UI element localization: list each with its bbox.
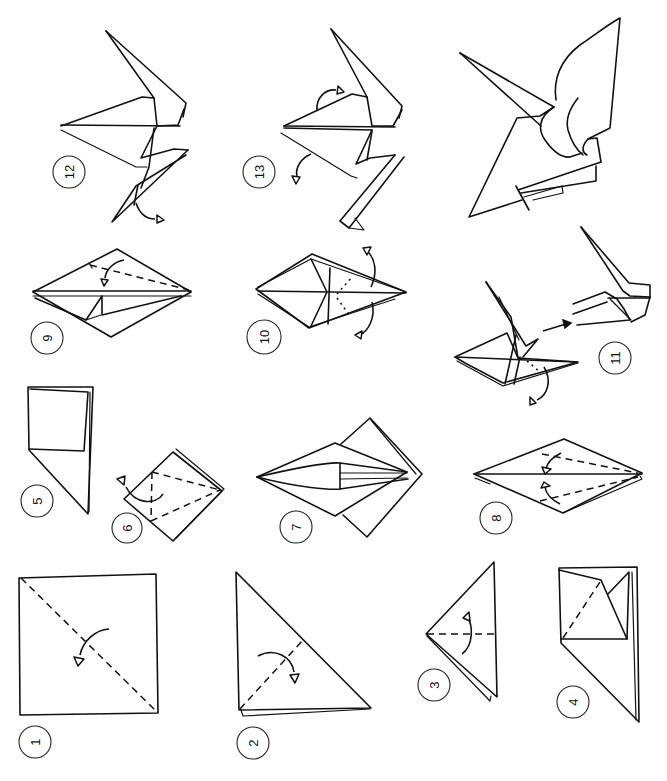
- arrow-head-icon: [290, 674, 299, 683]
- step-3-number-badge: 3: [418, 669, 450, 701]
- head-detail: [573, 227, 650, 325]
- step-12: 12: [53, 31, 188, 223]
- step-9-number: 9: [40, 334, 55, 341]
- wing-inner: [541, 107, 582, 157]
- step-13-number: 13: [252, 165, 267, 179]
- wing: [555, 18, 620, 155]
- arrow-head-icon: [355, 331, 362, 339]
- step-1-number-badge: 1: [19, 726, 51, 758]
- step-2-number: 2: [246, 739, 261, 746]
- diamond-body: [257, 443, 407, 516]
- fold-line: [563, 582, 600, 638]
- fold-arrow-up: [367, 251, 375, 287]
- step-8: 8: [474, 439, 642, 534]
- neck: [331, 29, 402, 118]
- step-11-number: 11: [608, 351, 623, 365]
- step-3-number: 3: [427, 681, 442, 688]
- arrow-head-icon: [117, 476, 125, 485]
- step-5: 5: [21, 387, 93, 517]
- arrow-head-icon: [542, 467, 551, 474]
- arrow-head-icon: [463, 612, 470, 621]
- step-7: 7: [257, 418, 422, 543]
- step-4-number-badge: 4: [557, 686, 589, 718]
- step-7-number: 7: [289, 523, 304, 530]
- step-1-number: 1: [28, 738, 43, 745]
- step-4-number: 4: [566, 698, 581, 705]
- step-5-number-badge: 5: [21, 485, 53, 517]
- square-flap: [29, 389, 88, 451]
- arrow-head-icon: [530, 397, 536, 405]
- square-paper: [19, 574, 158, 715]
- fold-arrow-down: [297, 154, 311, 176]
- step-12-number-badge: 12: [53, 156, 85, 188]
- triangle-paper: [236, 572, 371, 710]
- step-12-number: 12: [62, 165, 77, 179]
- step-8-number: 8: [489, 514, 504, 521]
- tail: [516, 162, 601, 210]
- step-10: 10: [247, 247, 406, 354]
- fold-arrow: [80, 629, 109, 655]
- step-4: 4: [557, 567, 639, 722]
- step-5-number: 5: [30, 497, 45, 504]
- transition-arrow: [543, 324, 566, 331]
- diamond-body: [33, 249, 191, 337]
- step-8-number-badge: 8: [480, 502, 512, 534]
- arrow-head-icon: [541, 482, 550, 488]
- step-9-number-badge: 9: [31, 322, 63, 354]
- step-13: 13: [243, 29, 404, 230]
- origami-diagram: 1 2 3 4: [0, 0, 667, 781]
- step-1: 1: [19, 574, 158, 758]
- fold-arrow: [105, 260, 124, 278]
- step-11: 11: [455, 227, 650, 405]
- step-11-number-badge: 11: [599, 342, 631, 374]
- step-10-number-badge: 10: [247, 320, 281, 354]
- fold-arrow-bottom: [545, 487, 560, 504]
- fold-arrow-up: [317, 90, 336, 110]
- step-7-number-badge: 7: [280, 511, 312, 543]
- step-9: 9: [31, 249, 191, 354]
- step-6: 6: [112, 449, 224, 543]
- arrow-head-icon: [157, 215, 164, 223]
- back-flaps: [341, 418, 422, 537]
- arrow-head-icon: [337, 86, 344, 94]
- step-13-number-badge: 13: [243, 156, 275, 188]
- step-3: 3: [418, 562, 497, 701]
- fold-arrow: [136, 203, 155, 219]
- step-10-number: 10: [257, 330, 272, 344]
- step-2-number-badge: 2: [237, 727, 269, 759]
- neck: [106, 31, 186, 117]
- diagonal-fold-line: [21, 578, 157, 712]
- finished-crane: [460, 18, 620, 217]
- step-2: 2: [236, 572, 371, 759]
- step-6-number: 6: [120, 524, 135, 531]
- fold-arrow: [126, 487, 163, 502]
- legs: [340, 155, 404, 228]
- arrow-head-icon: [563, 320, 571, 328]
- step-6-number-badge: 6: [112, 513, 142, 543]
- arrow-head-icon: [101, 279, 108, 286]
- arrow-head-icon: [74, 657, 84, 666]
- arrow-head-icon: [292, 176, 300, 184]
